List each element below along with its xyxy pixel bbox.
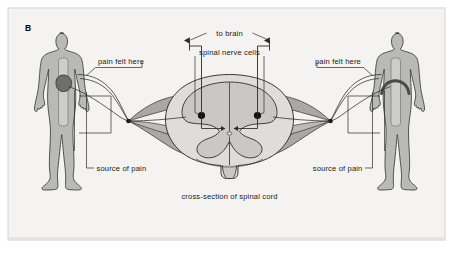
spinal-column-right bbox=[391, 58, 401, 126]
label-source-of-pain-left: source of pain bbox=[97, 164, 147, 173]
panel-label-b: B bbox=[25, 23, 31, 33]
caption-cross-section: cross-section of spinal cord bbox=[181, 192, 277, 201]
figure-panel-b: B to brain spinal nerve cells pain felt … bbox=[0, 0, 459, 273]
label-source-of-pain-right: source of pain bbox=[313, 164, 363, 173]
central-canal bbox=[227, 132, 231, 135]
frame-shadow-edge bbox=[9, 237, 445, 240]
referred-pain-diagram: B to brain spinal nerve cells pain felt … bbox=[0, 0, 459, 273]
label-to-brain: to brain bbox=[216, 29, 243, 38]
label-pain-felt-here-right: pain felt here bbox=[315, 57, 361, 66]
label-pain-felt-here-left: pain felt here bbox=[98, 57, 144, 66]
label-spinal-nerve-cells: spinal nerve cells bbox=[199, 48, 260, 57]
heart-organ-left bbox=[56, 75, 72, 92]
